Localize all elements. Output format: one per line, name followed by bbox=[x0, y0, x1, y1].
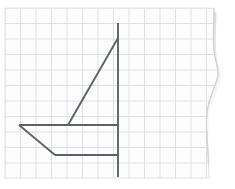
grid-paper-drawing-canvas bbox=[0, 0, 235, 189]
grid-paper-sheet bbox=[5, 8, 218, 178]
screenshot-root bbox=[0, 0, 235, 189]
